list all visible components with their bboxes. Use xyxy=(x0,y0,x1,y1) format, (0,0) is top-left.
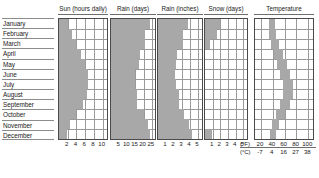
temperature-band xyxy=(270,129,276,139)
bar xyxy=(59,19,68,29)
month-label: December xyxy=(3,131,32,141)
bar xyxy=(158,59,176,69)
bar xyxy=(158,29,183,39)
month-row: January xyxy=(2,18,54,28)
temperature-band xyxy=(274,49,283,59)
grid-line-vertical xyxy=(220,19,221,139)
bar xyxy=(59,99,83,109)
month-row: October xyxy=(2,109,54,119)
bar xyxy=(111,19,150,29)
bar xyxy=(59,89,87,99)
bar xyxy=(158,129,192,139)
bar xyxy=(111,89,137,99)
axis-tick-label: 20 xyxy=(139,140,146,148)
axis-tick-label: 4 xyxy=(187,140,190,148)
axis-tick-label: 3 xyxy=(179,140,182,148)
temperature-band xyxy=(272,119,279,129)
axis-tick-labels: -74162738(°C) xyxy=(254,148,312,156)
axis-tick-label: 5 xyxy=(195,140,198,148)
axis-tick-labels: 12345 xyxy=(157,140,201,148)
axis-tick-label: 6 xyxy=(83,140,86,148)
temperature-band xyxy=(280,99,289,109)
month-label-column: JanuaryFebruaryMarchAprilMayJuneJulyAugu… xyxy=(2,18,54,140)
axis-tick-label: 4 xyxy=(270,148,273,156)
month-row: August xyxy=(2,89,54,99)
grid-line-vertical xyxy=(198,19,199,139)
axis-tick-label: 2 xyxy=(65,140,68,148)
grid-line-horizontal xyxy=(205,99,247,100)
grid-line-vertical xyxy=(103,19,104,139)
month-row: May xyxy=(2,59,54,69)
axis-tick-label: 4 xyxy=(233,140,236,148)
bar xyxy=(111,109,144,119)
axis-tick-label: 3 xyxy=(225,140,228,148)
panel-title-sun: Sun (hours daily) xyxy=(58,5,108,15)
axis-tick-label: 27 xyxy=(292,148,299,156)
axis-tick-label: 1 xyxy=(163,140,166,148)
plot-temperature xyxy=(254,18,314,140)
bar xyxy=(111,79,135,89)
grid-line-vertical xyxy=(152,19,153,139)
month-row: July xyxy=(2,79,54,89)
bar xyxy=(158,39,183,49)
month-row: April xyxy=(2,48,54,58)
bar xyxy=(59,59,85,69)
grid-line-vertical xyxy=(308,19,309,139)
bar xyxy=(205,129,212,139)
grid-line-vertical xyxy=(236,19,237,139)
bar xyxy=(59,79,88,89)
grid-line-horizontal xyxy=(205,89,247,90)
grid-line-vertical xyxy=(243,19,244,139)
climate-table: JanuaryFebruaryMarchAprilMayJuneJulyAugu… xyxy=(0,0,319,178)
panel-title-temperature: Temperature xyxy=(254,5,314,15)
month-row: September xyxy=(2,99,54,109)
grid-line-horizontal xyxy=(205,109,247,110)
axis-separator-rule xyxy=(240,147,316,148)
grid-line-horizontal xyxy=(205,59,247,60)
bar xyxy=(205,39,210,49)
temperature-band xyxy=(283,79,294,89)
month-row: December xyxy=(2,130,54,140)
bar xyxy=(158,69,175,79)
month-row: February xyxy=(2,28,54,38)
bar xyxy=(59,109,76,119)
bar xyxy=(59,49,81,59)
bar xyxy=(59,39,76,49)
bar xyxy=(111,59,139,69)
axis-tick-label: 4 xyxy=(74,140,77,148)
bar xyxy=(111,29,145,39)
temperature-band xyxy=(280,69,289,79)
plot-sun xyxy=(58,18,108,140)
temperature-band xyxy=(271,39,279,49)
axis-tick-label: 10 xyxy=(98,140,105,148)
panel-title-rain-inches: Rain (inches) xyxy=(157,5,203,15)
temperature-band xyxy=(269,19,276,29)
grid-line-vertical xyxy=(296,19,297,139)
grid-line-vertical xyxy=(228,19,229,139)
bar xyxy=(158,109,184,119)
bar xyxy=(158,99,179,109)
month-row: March xyxy=(2,38,54,48)
bar xyxy=(158,19,188,29)
axis-tick-label: 38 xyxy=(304,148,311,156)
bar xyxy=(158,89,179,99)
panel-title-rain-days: Rain (days) xyxy=(110,5,156,15)
axis-tick-label: 16 xyxy=(280,148,287,156)
month-row: November xyxy=(2,120,54,130)
plot-rain-inches xyxy=(157,18,203,140)
bar xyxy=(59,119,70,129)
bar xyxy=(111,129,150,139)
axis-tick-label: -7 xyxy=(257,148,262,156)
axis-tick-label: 5 xyxy=(116,140,119,148)
temperature-band xyxy=(283,89,293,99)
temperature-band xyxy=(269,29,276,39)
bar xyxy=(111,69,135,79)
bar xyxy=(59,129,67,139)
temperature-band xyxy=(277,59,286,69)
axis-unit-label: (°C) xyxy=(240,148,251,156)
grid-line-vertical xyxy=(261,19,262,139)
axis-tick-label: 15 xyxy=(131,140,138,148)
grid-line-vertical xyxy=(190,19,191,139)
bar xyxy=(59,29,72,39)
bar xyxy=(59,69,88,79)
